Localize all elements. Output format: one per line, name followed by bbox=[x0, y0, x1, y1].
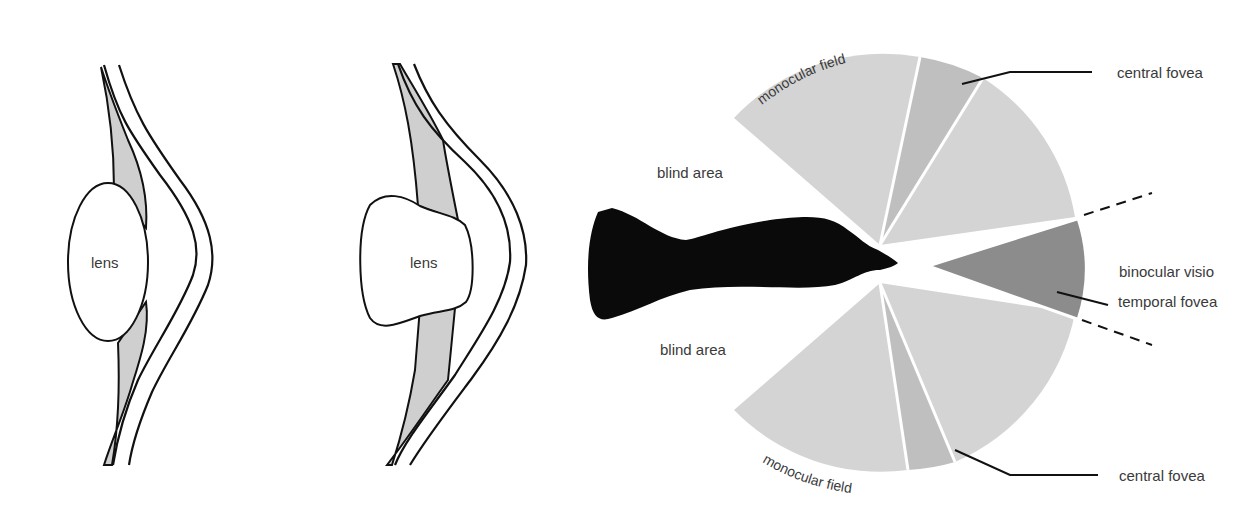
lens-label: lens bbox=[91, 254, 119, 271]
visual-field-panel: blind area blind area monocular field mo… bbox=[588, 50, 1218, 496]
central-fovea-label-top: central fovea bbox=[1117, 64, 1204, 81]
central-fovea-label-bottom: central fovea bbox=[1119, 467, 1206, 484]
eye-panel-accommodated: lens bbox=[360, 64, 526, 465]
eye-panel-relaxed: lens bbox=[68, 65, 212, 465]
ciliary-tissue-bottom bbox=[387, 307, 455, 465]
eye-and-visual-field-diagram: lens lens bbox=[0, 0, 1243, 517]
blind-area-label-top: blind area bbox=[657, 164, 724, 181]
temporal-fovea-label: temporal fovea bbox=[1118, 293, 1218, 310]
blind-area-label-bottom: blind area bbox=[660, 341, 727, 358]
lens-label: lens bbox=[410, 254, 438, 271]
binocular-vision-label: binocular visio bbox=[1119, 263, 1214, 280]
monocular-field-lower-left-wedge bbox=[734, 283, 908, 472]
head-silhouette bbox=[588, 208, 898, 319]
leader-central-fovea-bottom bbox=[955, 450, 1098, 475]
